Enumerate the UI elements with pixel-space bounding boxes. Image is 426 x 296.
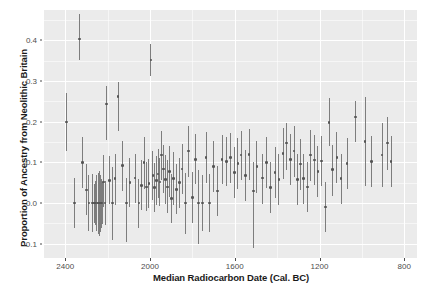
y-axis: 0.40.30.20.10.0-0.1 — [12, 10, 42, 258]
data-point — [278, 178, 281, 181]
data-point — [212, 165, 215, 168]
data-point — [302, 177, 305, 180]
data-point — [269, 186, 272, 189]
data-point — [317, 170, 320, 173]
data-point — [216, 190, 219, 193]
data-point — [233, 171, 236, 174]
x-tick-label: 2400 — [45, 262, 85, 271]
data-point — [117, 95, 120, 98]
x-tick-label: 1600 — [215, 262, 255, 271]
x-tick-mark — [65, 258, 66, 261]
data-point — [340, 177, 343, 180]
data-point — [346, 162, 349, 165]
x-tick-mark — [320, 258, 321, 261]
data-point — [328, 121, 331, 124]
data-point — [108, 179, 111, 182]
data-point — [181, 168, 184, 171]
y-tick-label: 0.0 — [11, 199, 37, 208]
data-point — [296, 178, 299, 181]
data-point — [168, 170, 171, 173]
data-point — [265, 161, 268, 164]
data-point — [386, 142, 389, 145]
data-point — [178, 181, 181, 184]
x-axis-title: Median Radiocarbon Date (Cal. BC) — [44, 272, 418, 283]
data-point — [252, 190, 255, 193]
data-point — [81, 161, 84, 164]
x-tick-mark — [404, 258, 405, 261]
data-point — [261, 177, 264, 180]
data-point — [229, 156, 232, 159]
data-point — [244, 174, 247, 177]
data-point — [285, 142, 288, 145]
gridline-vertical-major — [235, 10, 236, 258]
y-tick-label: 0.2 — [11, 117, 37, 126]
x-axis: 2400200016001200800 — [44, 258, 417, 272]
error-bar — [355, 101, 356, 142]
data-point — [256, 165, 259, 168]
y-tick-label: -0.1 — [11, 239, 37, 248]
data-point — [205, 156, 208, 159]
data-point — [140, 184, 143, 187]
data-point — [320, 160, 323, 163]
x-tick-mark — [150, 258, 151, 261]
x-tick-mark — [235, 258, 236, 261]
data-point — [370, 160, 373, 163]
data-point — [191, 196, 194, 199]
error-bar — [106, 86, 107, 140]
y-tick-mark — [40, 121, 43, 122]
data-point — [354, 116, 357, 119]
data-point — [114, 177, 117, 180]
chart-figure: Proportion of Ancestry from Neolithic Br… — [0, 0, 426, 296]
data-point — [221, 158, 224, 161]
x-tick-label: 1200 — [300, 262, 340, 271]
error-bar — [198, 170, 199, 244]
data-point — [331, 168, 334, 171]
data-point — [65, 121, 68, 124]
error-bar — [286, 123, 287, 170]
gridline-vertical-minor — [108, 10, 109, 258]
data-point — [175, 188, 178, 191]
error-bar — [118, 82, 119, 131]
y-tick-label: 0.4 — [11, 36, 37, 45]
data-point — [105, 103, 108, 106]
data-point — [306, 186, 309, 189]
plot-panel — [44, 10, 417, 258]
data-point — [237, 162, 240, 165]
y-tick-mark — [40, 81, 43, 82]
data-point — [225, 160, 228, 163]
x-tick-label: 2000 — [130, 262, 170, 271]
data-point — [313, 159, 316, 162]
data-point — [78, 38, 81, 41]
data-point — [172, 177, 175, 180]
y-tick-mark — [40, 40, 43, 41]
y-tick-mark — [40, 243, 43, 244]
error-bar — [126, 178, 127, 242]
data-point — [364, 140, 367, 143]
data-point — [129, 181, 132, 184]
data-point — [121, 164, 124, 167]
gridline-vertical-major — [404, 10, 405, 258]
data-point — [134, 177, 137, 180]
data-point — [194, 158, 197, 161]
y-tick-label: 0.1 — [11, 158, 37, 167]
y-tick-mark — [40, 162, 43, 163]
error-bar — [79, 14, 80, 60]
data-point — [336, 156, 339, 159]
y-tick-label: 0.3 — [11, 77, 37, 86]
y-tick-mark — [40, 203, 43, 204]
data-point — [289, 158, 292, 161]
data-point — [299, 163, 302, 166]
data-point — [274, 171, 277, 174]
data-point — [248, 153, 251, 156]
gridline-vertical-minor — [277, 10, 278, 258]
gridline-vertical-minor — [362, 10, 363, 258]
gridline-vertical-major — [320, 10, 321, 258]
error-bar — [253, 162, 254, 247]
data-point — [293, 150, 296, 153]
data-point — [282, 152, 285, 155]
data-point — [148, 182, 151, 185]
x-tick-label: 800 — [384, 262, 424, 271]
